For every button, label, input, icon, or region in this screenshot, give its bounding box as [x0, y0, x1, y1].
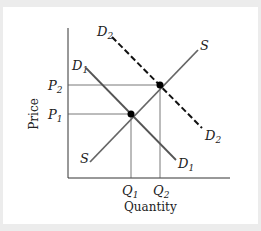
d2-bottom-label: D2 [204, 128, 221, 145]
x-axis-label: Quantity [124, 200, 177, 214]
p2-label: P2 [47, 78, 63, 95]
supply-curve [90, 50, 198, 162]
supply-demand-diagram: D2 D1 S S D1 D2 P2 P1 Q1 Q2 Quantity Pri… [0, 0, 261, 231]
equilibrium-point-1 [128, 111, 135, 118]
y-axis-label: Price [27, 98, 41, 129]
d1-bottom-label: D1 [177, 156, 194, 173]
d1-top-label: D1 [71, 58, 88, 75]
s-top-label: S [200, 38, 209, 53]
equilibrium-point-2 [157, 82, 164, 89]
q1-label: Q1 [122, 183, 138, 200]
s-bottom-label: S [80, 151, 89, 166]
d2-top-label: D2 [96, 24, 113, 41]
p1-label: P1 [47, 107, 62, 124]
q2-label: Q2 [153, 183, 170, 200]
